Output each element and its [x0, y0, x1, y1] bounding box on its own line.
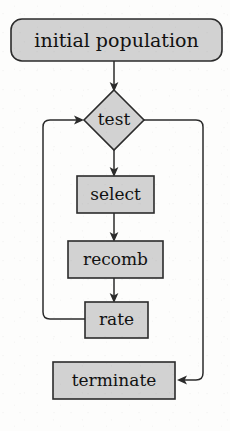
node-label-recomb: recomb — [83, 249, 148, 269]
node-select[interactable]: select — [77, 176, 154, 213]
node-test[interactable]: test — [84, 90, 144, 150]
flowchart-canvas: initial population test select recomb ra… — [0, 0, 230, 431]
node-initial-population[interactable]: initial population — [11, 19, 222, 61]
node-label-rate: rate — [99, 309, 134, 329]
node-label-test: test — [98, 109, 131, 129]
edge-recomb-to-rate — [110, 278, 119, 303]
node-label-initial-population: initial population — [34, 29, 198, 51]
edge-select-to-recomb — [110, 213, 119, 242]
node-label-terminate: terminate — [72, 370, 157, 390]
node-recomb[interactable]: recomb — [68, 241, 163, 278]
flowchart-svg: initial population test select recomb ra… — [0, 0, 230, 431]
edge-rate-to-test — [43, 116, 85, 319]
node-terminate[interactable]: terminate — [53, 362, 175, 399]
edge-test-to-select — [110, 150, 119, 177]
node-rate[interactable]: rate — [85, 302, 148, 338]
node-label-select: select — [90, 184, 141, 204]
edge-initial-to-test — [110, 61, 119, 92]
